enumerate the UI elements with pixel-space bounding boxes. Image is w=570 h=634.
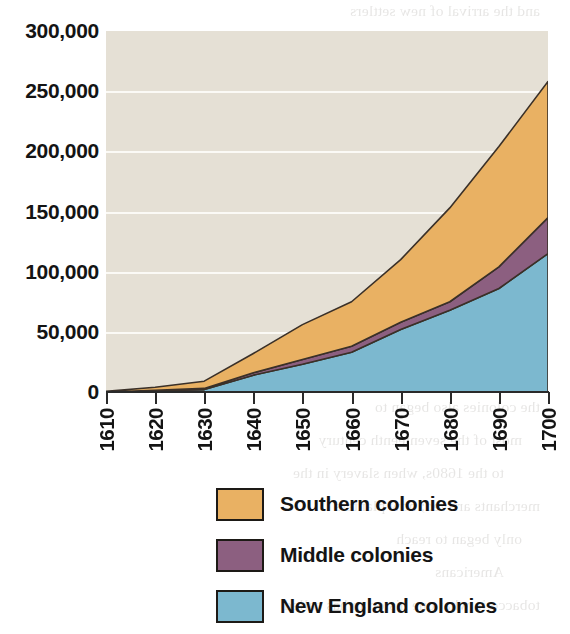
x-tick-mark — [401, 392, 403, 404]
legend-label: New England colonies — [280, 594, 497, 618]
x-tick-label: 1700 — [537, 408, 561, 452]
x-tick-mark — [450, 392, 452, 404]
x-tick-label: 1610 — [95, 408, 119, 452]
x-tick-mark — [548, 392, 550, 404]
x-tick-label: 1620 — [144, 408, 168, 452]
legend-item: Southern colonies — [216, 486, 497, 522]
x-tick-mark — [253, 392, 255, 404]
x-tick-label: 1660 — [341, 408, 365, 452]
legend-swatch — [216, 539, 264, 572]
legend-label: Middle colonies — [280, 543, 433, 567]
legend-swatch — [216, 488, 264, 521]
x-tick-mark — [204, 392, 206, 404]
x-tick-label: 1640 — [242, 408, 266, 452]
legend-swatch — [216, 590, 264, 623]
chart-legend: Southern coloniesMiddle coloniesNew Engl… — [216, 486, 497, 634]
x-tick-mark — [106, 392, 108, 404]
x-tick-mark — [499, 392, 501, 404]
x-tick-mark — [302, 392, 304, 404]
x-tick-label: 1690 — [488, 408, 512, 452]
x-tick-label: 1670 — [390, 408, 414, 452]
legend-label: Southern colonies — [280, 492, 458, 516]
legend-item: New England colonies — [216, 588, 497, 624]
x-tick-mark — [155, 392, 157, 404]
x-tick-mark — [352, 392, 354, 404]
population-growth-area-chart: 300,000250,000200,000150,000100,00050,00… — [0, 0, 570, 634]
x-tick-label: 1680 — [439, 408, 463, 452]
legend-item: Middle colonies — [216, 537, 497, 573]
x-tick-label: 1650 — [291, 408, 315, 452]
x-tick-label: 1630 — [193, 408, 217, 452]
